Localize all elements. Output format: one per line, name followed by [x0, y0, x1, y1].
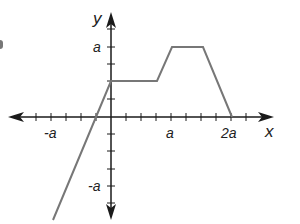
x-tick-label-a: a — [166, 125, 174, 141]
y-axis — [106, 12, 116, 220]
x-axis-label: x — [264, 122, 274, 141]
piecewise-function-graph: x y -a a 2a a -a — [0, 0, 300, 224]
x-axis — [8, 112, 274, 122]
y-tick-label-a: a — [93, 39, 101, 55]
x-tick-label-2a: 2a — [220, 125, 237, 141]
function-curve — [53, 47, 232, 220]
x-tick-label-neg-a: -a — [44, 125, 57, 141]
y-tick-label-neg-a: -a — [88, 178, 101, 194]
y-axis-label: y — [92, 9, 103, 28]
